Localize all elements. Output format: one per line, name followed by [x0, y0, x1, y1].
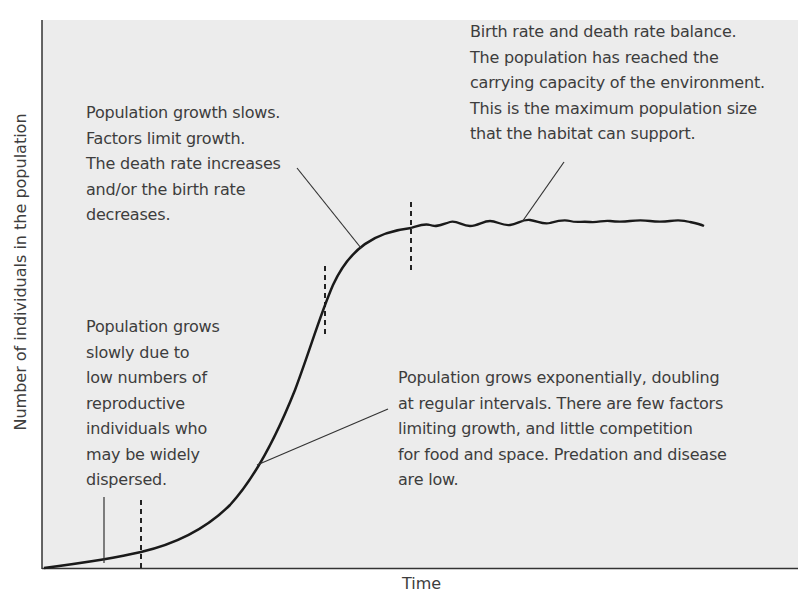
logistic-growth-chart: Population growth slows. Factors limit g… [0, 0, 800, 602]
annotation-slowing: Population growth slows. Factors limit g… [86, 100, 281, 228]
x-axis-label: Time [402, 574, 441, 593]
annotation-exponential: Population grows exponentially, doubling… [398, 365, 727, 493]
leader-line-slowing [297, 168, 361, 248]
plateau-curve [411, 220, 704, 228]
leader-line-carrying-capacity [522, 162, 564, 222]
y-axis-label: Number of individuals in the population [11, 113, 30, 430]
annotation-lag: Population grows slowly due to low numbe… [86, 314, 220, 493]
leader-line-exponential [257, 409, 388, 465]
annotation-carrying-capacity: Birth rate and death rate balance. The p… [470, 19, 765, 147]
